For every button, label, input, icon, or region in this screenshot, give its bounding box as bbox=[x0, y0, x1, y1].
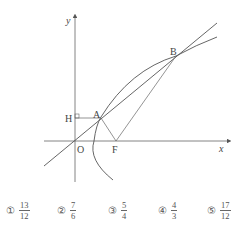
numerator: 5 bbox=[121, 200, 127, 211]
numerator: 7 bbox=[70, 200, 76, 211]
line-oab bbox=[44, 23, 217, 166]
choice-marker: ④ bbox=[158, 205, 167, 216]
denominator: 3 bbox=[172, 211, 176, 221]
right-angle-marker bbox=[75, 114, 79, 118]
choice-4[interactable]: ④ 4 3 bbox=[158, 200, 177, 221]
choice-fraction: 4 3 bbox=[171, 200, 177, 221]
denominator: 4 bbox=[122, 211, 126, 221]
point-label-f: F bbox=[112, 144, 118, 155]
parabola-curve bbox=[93, 37, 217, 180]
point-label-a: A bbox=[93, 109, 101, 120]
y-axis-label: y bbox=[65, 15, 71, 26]
choice-marker: ③ bbox=[108, 205, 117, 216]
choice-fraction: 13 12 bbox=[19, 200, 30, 221]
denominator: 12 bbox=[221, 211, 230, 221]
choice-fraction: 5 4 bbox=[121, 200, 127, 221]
choice-fraction: 17 12 bbox=[220, 200, 231, 221]
choice-2[interactable]: ② 7 6 bbox=[57, 200, 76, 221]
numerator: 4 bbox=[171, 200, 177, 211]
geometry-diagram: y x O F H A B bbox=[0, 0, 244, 200]
point-label-b: B bbox=[170, 46, 177, 57]
numerator: 17 bbox=[220, 200, 231, 211]
choice-marker: ② bbox=[57, 205, 66, 216]
choice-marker: ⑤ bbox=[207, 205, 216, 216]
point-label-o: O bbox=[77, 144, 84, 155]
choice-fraction: 7 6 bbox=[70, 200, 76, 221]
point-label-h: H bbox=[65, 113, 72, 124]
choice-1[interactable]: ① 13 12 bbox=[6, 200, 30, 221]
answer-choices: ① 13 12 ② 7 6 ③ 5 4 ④ 4 3 ⑤ 17 12 bbox=[0, 200, 244, 230]
numerator: 13 bbox=[19, 200, 30, 211]
choice-5[interactable]: ⑤ 17 12 bbox=[207, 200, 231, 221]
choice-3[interactable]: ③ 5 4 bbox=[108, 200, 127, 221]
denominator: 6 bbox=[71, 211, 75, 221]
x-axis-label: x bbox=[218, 143, 224, 154]
denominator: 12 bbox=[20, 211, 29, 221]
segment-af bbox=[101, 118, 116, 141]
choice-marker: ① bbox=[6, 205, 15, 216]
